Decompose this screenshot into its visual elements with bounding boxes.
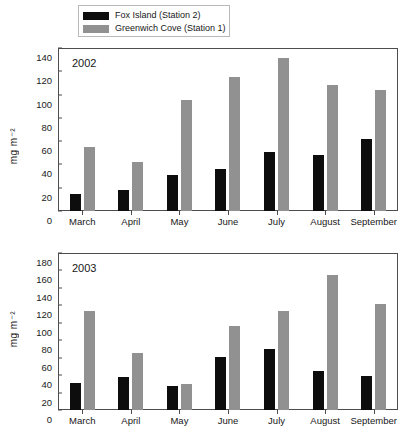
y-axis-label-2002: mg m⁻² bbox=[8, 128, 24, 164]
y-tick-label: 180 bbox=[36, 258, 58, 268]
bar-group bbox=[58, 253, 107, 410]
bars-2002 bbox=[58, 48, 398, 211]
bar-group bbox=[155, 253, 204, 410]
bar bbox=[70, 194, 81, 211]
y-tick-label: 40 bbox=[41, 380, 58, 390]
legend-label-fox-island: Fox Island (Station 2) bbox=[115, 11, 201, 20]
x-tick-label: July bbox=[268, 217, 285, 227]
bar-group bbox=[349, 253, 398, 410]
x-tick-mark bbox=[325, 211, 326, 215]
bar bbox=[229, 77, 240, 211]
x-tick-label: June bbox=[218, 217, 239, 227]
x-tick-mark bbox=[374, 410, 375, 414]
x-tick-mark bbox=[228, 211, 229, 215]
bar bbox=[278, 58, 289, 211]
x-tick-mark bbox=[374, 211, 375, 215]
bar-group bbox=[252, 48, 301, 211]
y-tick-label: 120 bbox=[36, 76, 58, 86]
x-tick-mark bbox=[179, 410, 180, 414]
x-tick-label: August bbox=[310, 217, 340, 227]
legend-item-fox-island: Fox Island (Station 2) bbox=[83, 9, 225, 22]
y-tick-label: 160 bbox=[36, 275, 58, 285]
x-tick-mark bbox=[131, 211, 132, 215]
x-tick-mark bbox=[277, 211, 278, 215]
bar bbox=[264, 349, 275, 410]
bar bbox=[118, 190, 129, 211]
y-tick-label: 100 bbox=[36, 328, 58, 338]
x-tick-label: September bbox=[350, 416, 396, 426]
bar-group bbox=[204, 48, 253, 211]
plot-area-2003: 2003 020406080100120140160180 MarchApril… bbox=[58, 253, 398, 410]
y-tick-label: 120 bbox=[36, 310, 58, 320]
bar-group bbox=[155, 48, 204, 211]
y-tick-label: 60 bbox=[41, 146, 58, 156]
x-tick-mark bbox=[131, 410, 132, 414]
bar-group bbox=[301, 253, 350, 410]
legend-item-greenwich-cove: Greenwich Cove (Station 1) bbox=[83, 22, 225, 35]
bar bbox=[215, 357, 226, 410]
bar bbox=[167, 175, 178, 211]
bar-group bbox=[107, 253, 156, 410]
x-tick-mark bbox=[277, 410, 278, 414]
legend-swatch-greenwich-cove bbox=[83, 25, 109, 33]
bar-group bbox=[252, 253, 301, 410]
chart-panel-2002: mg m⁻² 2002 020406080100120140 MarchApri… bbox=[0, 42, 410, 237]
x-tick-mark bbox=[228, 410, 229, 414]
bar bbox=[118, 377, 129, 410]
bar bbox=[181, 384, 192, 410]
bar-group bbox=[107, 48, 156, 211]
bar bbox=[327, 85, 338, 211]
x-tick-label: April bbox=[121, 416, 140, 426]
y-axis-label-2003: mg m⁻² bbox=[8, 311, 24, 347]
x-tick-label: June bbox=[218, 416, 239, 426]
bar bbox=[375, 90, 386, 211]
chart-panel-2003: mg m⁻² 2003 020406080100120140160180 Mar… bbox=[0, 233, 410, 438]
bar bbox=[313, 155, 324, 211]
y-tick-label: 40 bbox=[41, 169, 58, 179]
bar bbox=[70, 383, 81, 410]
y-tick-label: 140 bbox=[36, 53, 58, 63]
bar bbox=[181, 100, 192, 211]
chart-legend: Fox Island (Station 2) Greenwich Cove (S… bbox=[78, 5, 230, 37]
x-tick-label: May bbox=[170, 217, 188, 227]
x-tick-label: July bbox=[268, 416, 285, 426]
x-tick-label: August bbox=[310, 416, 340, 426]
bar bbox=[84, 311, 95, 410]
y-tick-label: 100 bbox=[36, 99, 58, 109]
legend-swatch-fox-island bbox=[83, 12, 109, 20]
x-tick-mark bbox=[325, 410, 326, 414]
bar bbox=[132, 353, 143, 410]
bar-group bbox=[58, 48, 107, 211]
bar-group bbox=[204, 253, 253, 410]
x-tick-label: March bbox=[69, 217, 95, 227]
bar bbox=[264, 152, 275, 211]
y-tick-label: 0 bbox=[47, 216, 58, 226]
y-tick-label: 140 bbox=[36, 293, 58, 303]
y-tick-label: 80 bbox=[41, 345, 58, 355]
x-tick-label: September bbox=[350, 217, 396, 227]
x-tick-mark bbox=[82, 211, 83, 215]
plot-area-2002: 2002 020406080100120140 MarchAprilMayJun… bbox=[58, 48, 398, 211]
bar bbox=[375, 304, 386, 410]
bar bbox=[167, 386, 178, 410]
y-tick-label: 0 bbox=[47, 415, 58, 425]
bar bbox=[132, 162, 143, 211]
bar bbox=[84, 147, 95, 211]
bar bbox=[361, 139, 372, 211]
x-tick-mark bbox=[82, 410, 83, 414]
x-tick-label: May bbox=[170, 416, 188, 426]
bar bbox=[215, 169, 226, 211]
bar-group bbox=[349, 48, 398, 211]
legend-label-greenwich-cove: Greenwich Cove (Station 1) bbox=[115, 24, 226, 33]
x-tick-label: March bbox=[69, 416, 95, 426]
bar-group bbox=[301, 48, 350, 211]
x-tick-mark bbox=[179, 211, 180, 215]
bar bbox=[278, 311, 289, 410]
bar bbox=[361, 376, 372, 410]
bar bbox=[313, 371, 324, 410]
figure: Fox Island (Station 2) Greenwich Cove (S… bbox=[0, 0, 410, 442]
x-tick-label: April bbox=[121, 217, 140, 227]
y-tick-label: 60 bbox=[41, 362, 58, 372]
y-tick-label: 20 bbox=[41, 192, 58, 202]
y-tick-label: 80 bbox=[41, 123, 58, 133]
